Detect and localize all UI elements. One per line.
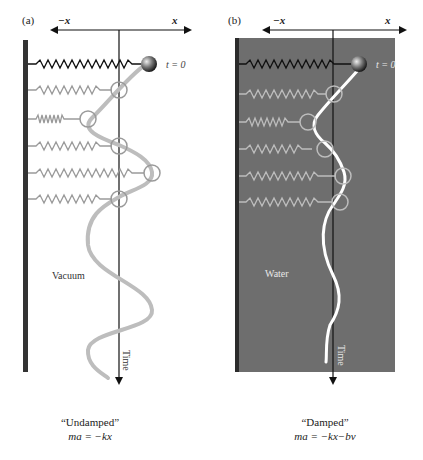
arrow-right-icon <box>184 26 192 34</box>
caption-title-damped: “Damped” <box>270 415 380 429</box>
medium-label-water: Water <box>265 268 289 279</box>
mass-ball-icon <box>141 56 157 72</box>
arrow-left-icon <box>50 26 58 34</box>
axis-neg-label-b: −x <box>273 14 286 26</box>
panel-undamped <box>23 26 192 385</box>
arrow-down-icon <box>329 377 337 385</box>
arrow-left-icon <box>262 26 270 34</box>
arrow-right-icon <box>399 26 407 34</box>
spring-4 <box>28 169 144 177</box>
spring-3 <box>28 142 112 150</box>
water-region <box>235 38 395 372</box>
spring-2 <box>28 115 80 123</box>
caption-undamped: “Undamped” ma = −kx <box>40 415 140 443</box>
trajectory-undamped <box>88 65 152 378</box>
spring-t0 <box>28 60 141 68</box>
equation-undamped: ma = −kx <box>40 429 140 443</box>
wall <box>235 38 239 372</box>
oscillator-diagram: (a) −x x t = 0 Vacuum Time (b) −x x t = … <box>0 0 423 460</box>
mass-ball-icon <box>351 56 367 72</box>
arrow-down-icon <box>115 377 123 385</box>
t0-label-a: t = 0 <box>166 59 186 70</box>
panel-label-a: (a) <box>22 14 35 27</box>
time-label-a: Time <box>121 350 132 371</box>
equation-damped: ma = −kx−bv <box>270 429 380 443</box>
wall <box>23 40 28 372</box>
caption-title-undamped: “Undamped” <box>40 415 140 429</box>
panel-label-b: (b) <box>228 14 241 27</box>
medium-label-vacuum: Vacuum <box>52 270 85 281</box>
spring-5 <box>28 195 112 203</box>
spring-1 <box>28 86 112 94</box>
caption-damped: “Damped” ma = −kx−bv <box>270 415 380 443</box>
time-label-b: Time <box>336 345 347 366</box>
axis-pos-label-a: x <box>171 14 178 26</box>
t0-label-b: t = 0 <box>376 59 396 70</box>
axis-pos-label-b: x <box>384 14 391 26</box>
panel-damped <box>235 26 407 385</box>
axis-neg-label-a: −x <box>58 14 71 26</box>
